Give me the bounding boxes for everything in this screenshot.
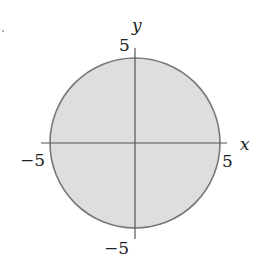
x-tick-neg: −5 (20, 150, 45, 170)
y-axis-label: y (131, 15, 142, 35)
y-tick-neg: −5 (104, 238, 129, 258)
disk-diagram: y 5 x 5 −5 −5 (0, 0, 255, 270)
y-tick-pos: 5 (119, 35, 130, 55)
x-axis-label: x (240, 134, 250, 154)
x-tick-pos: 5 (222, 151, 233, 171)
stray-dot (2, 30, 4, 32)
